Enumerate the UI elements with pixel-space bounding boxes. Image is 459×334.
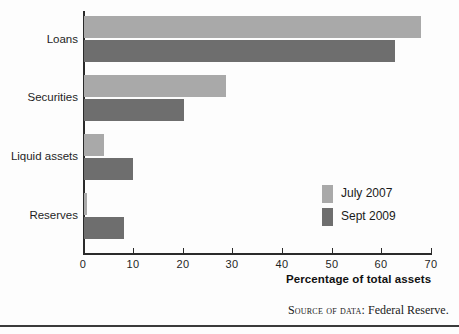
x-tick-60 (381, 248, 382, 254)
bar-loans-july-2007 (84, 16, 421, 38)
x-tick-10 (133, 248, 134, 254)
bar-reserves-sept-2009 (84, 217, 124, 239)
legend-swatch-july-2007 (322, 185, 333, 203)
x-tick-40 (282, 248, 283, 254)
bar-securities-july-2007 (84, 75, 226, 97)
x-axis-title: Percentage of total assets (286, 273, 431, 285)
chart-figure: Loans Securities Liquid assets Reserves … (0, 0, 459, 334)
x-tick-0 (83, 248, 84, 254)
source-note-prefix: Source of data: (288, 303, 365, 317)
category-label-securities: Securities (4, 91, 78, 103)
x-tick-label-60: 60 (375, 258, 388, 270)
x-tick-label-50: 50 (326, 258, 339, 270)
bar-reserves-july-2007 (84, 193, 87, 215)
legend-label-sept-2009: Sept 2009 (341, 209, 396, 223)
bar-securities-sept-2009 (84, 99, 184, 121)
category-label-reserves: Reserves (4, 209, 78, 221)
bar-loans-sept-2009 (84, 40, 395, 62)
x-tick-70 (431, 248, 432, 254)
source-note-value: Federal Reserve. (368, 303, 449, 317)
source-note: Source of data: Federal Reserve. (288, 303, 449, 318)
x-tick-label-30: 30 (226, 258, 239, 270)
x-tick-50 (332, 248, 333, 254)
x-tick-label-20: 20 (177, 258, 190, 270)
bar-liquid-assets-july-2007 (84, 134, 104, 156)
bar-liquid-assets-sept-2009 (84, 158, 133, 180)
category-label-liquid-assets: Liquid assets (4, 150, 78, 162)
x-tick-30 (232, 248, 233, 254)
x-axis-line (83, 253, 432, 255)
x-tick-label-70: 70 (425, 258, 438, 270)
bottom-divider (0, 325, 459, 327)
x-tick-label-10: 10 (127, 258, 140, 270)
category-axis-labels: Loans Securities Liquid assets Reserves (0, 0, 78, 254)
x-tick-20 (183, 248, 184, 254)
legend-swatch-sept-2009 (322, 208, 333, 226)
category-label-loans: Loans (4, 33, 78, 45)
x-tick-label-0: 0 (80, 258, 86, 270)
x-tick-label-40: 40 (276, 258, 289, 270)
legend-label-july-2007: July 2007 (341, 186, 392, 200)
